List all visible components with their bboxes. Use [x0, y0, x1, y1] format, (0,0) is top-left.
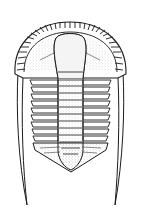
trilobite-illustration	[0, 0, 141, 222]
trilobite-figure	[0, 0, 141, 222]
glabella-axis	[54, 34, 86, 171]
